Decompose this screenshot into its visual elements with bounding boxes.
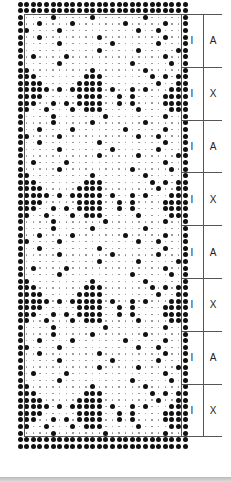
grid-dot [59, 333, 60, 334]
grid-dot [85, 17, 86, 18]
grid-dot [66, 182, 67, 183]
stitch-dot [103, 437, 108, 442]
grid-dot [145, 129, 146, 130]
grid-dot [92, 261, 93, 262]
stitch-dot [31, 299, 36, 304]
stitch-dot [18, 153, 23, 158]
grid-dot [112, 155, 113, 156]
grid-dot [151, 155, 152, 156]
grid-dot [72, 333, 73, 334]
grid-dot [72, 96, 73, 97]
stitch-dot [90, 186, 95, 191]
grid-dot [118, 168, 119, 169]
stitch-dot [37, 246, 42, 251]
grid-dot [132, 366, 133, 367]
grid-dot [79, 30, 80, 31]
grid-dot [151, 254, 152, 255]
stitch-dot [37, 2, 42, 7]
stitch-dot [123, 444, 128, 449]
stitch-dot [44, 107, 49, 112]
grid-dot [26, 142, 27, 143]
stitch-dot [44, 437, 49, 442]
stitch-dot [130, 8, 135, 13]
stitch-dot [77, 437, 82, 442]
grid-dot [145, 426, 146, 427]
grid-dot [165, 406, 166, 407]
stitch-dot [18, 186, 23, 191]
grid-dot [26, 274, 27, 275]
stitch-dot [51, 8, 56, 13]
stitch-dot [90, 226, 95, 231]
grid-dot [151, 142, 152, 143]
grid-dot [138, 122, 139, 123]
grid-dot [125, 373, 126, 374]
stitch-dot [18, 398, 23, 403]
stitch-dot [84, 87, 89, 92]
stitch-dot [169, 272, 174, 277]
stitch-dot [18, 134, 23, 139]
stitch-dot [143, 437, 148, 442]
grid-dot [66, 30, 67, 31]
grid-dot [118, 221, 119, 222]
grid-dot [66, 320, 67, 321]
stitch-dot [169, 305, 174, 310]
grid-dot [132, 76, 133, 77]
stitch-dot [156, 2, 161, 7]
grid-dot [118, 340, 119, 341]
grid-dot [138, 162, 139, 163]
grid-dot [52, 353, 53, 354]
grid-dot [118, 393, 119, 394]
grid-dot [118, 386, 119, 387]
stitch-dot [18, 226, 23, 231]
grid-dot [145, 241, 146, 242]
grid-dot [171, 248, 172, 249]
stitch-dot [117, 101, 122, 106]
grid-dot [138, 360, 139, 361]
grid-dot [132, 56, 133, 57]
grid-dot [132, 43, 133, 44]
grid-dot [151, 129, 152, 130]
grid-dot [125, 122, 126, 123]
grid-dot [85, 43, 86, 44]
grid-dot [151, 36, 152, 37]
grid-dot [85, 142, 86, 143]
stitch-dot [169, 299, 174, 304]
stitch-dot [163, 74, 168, 79]
stitch-dot [90, 437, 95, 442]
grid-dot [118, 281, 119, 282]
stitch-dot [57, 87, 62, 92]
grid-dot [138, 353, 139, 354]
grid-dot [112, 228, 113, 229]
grid-dot [66, 413, 67, 414]
stitch-dot [163, 305, 168, 310]
grid-dot [99, 241, 100, 242]
grid-dot [145, 314, 146, 315]
grid-dot [52, 426, 53, 427]
stitch-dot [183, 226, 188, 231]
stitch-dot [110, 41, 115, 46]
grid-dot [171, 393, 172, 394]
grid-dot [52, 234, 53, 235]
stitch-dot [84, 186, 89, 191]
stitch-dot [84, 417, 89, 422]
grid-dot [125, 182, 126, 183]
grid-dot [145, 261, 146, 262]
stitch-dot [37, 444, 42, 449]
grid-dot [132, 36, 133, 37]
grid-dot [72, 360, 73, 361]
grid-dot [158, 155, 159, 156]
grid-dot [132, 327, 133, 328]
grid-dot [85, 234, 86, 235]
grid-dot [118, 234, 119, 235]
stitch-dot [143, 404, 148, 409]
stitch-dot [90, 305, 95, 310]
grid-dot [138, 380, 139, 381]
grid-dot [85, 267, 86, 268]
grid-dot [72, 201, 73, 202]
grid-dot [33, 63, 34, 64]
grid-dot [39, 393, 40, 394]
grid-dot [158, 393, 159, 394]
stitch-dot [130, 444, 135, 449]
stitch-dot [84, 81, 89, 86]
stitch-dot [117, 411, 122, 416]
